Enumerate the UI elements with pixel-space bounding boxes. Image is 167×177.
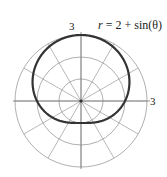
origin-dot	[79, 99, 82, 102]
radial-label-top: 3	[69, 21, 75, 32]
grid-spoke	[48, 44, 81, 101]
grid-spoke	[81, 44, 114, 101]
grid-spoke	[81, 101, 114, 158]
radial-label-right: 3	[150, 96, 156, 107]
equation-label: r = 2 + sin(θ)	[98, 19, 162, 31]
grid-spoke	[48, 101, 81, 158]
equation-rhs: 2 + sin(θ)	[115, 18, 162, 32]
equation-lhs: r	[98, 18, 103, 32]
